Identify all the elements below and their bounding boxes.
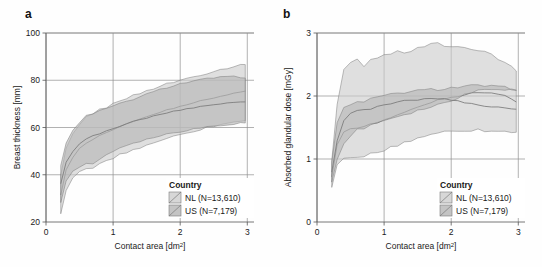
- x-tick-label: 0: [315, 227, 320, 237]
- y-tick-label: 0: [306, 217, 311, 227]
- y-tick-label: 2: [306, 91, 311, 101]
- legend-label-us: US (N=7,179): [185, 206, 237, 216]
- x-tick-label: 0: [44, 227, 49, 237]
- legend-title: Country: [169, 180, 202, 190]
- legend: CountryNL (N=13,610)US (N=7,179): [437, 178, 525, 218]
- y-tick-label: 1: [306, 154, 311, 164]
- x-axis-title: Contact area [dm2]: [115, 241, 186, 251]
- panel-a-plot: 012320406080100Contact area [dm2]Breast …: [0, 0, 271, 267]
- x-tick-label: 3: [245, 227, 250, 237]
- x-tick-label: 3: [516, 227, 521, 237]
- y-axis-title: Breast thickness [mm]: [12, 86, 22, 170]
- legend-label-nl: NL (N=13,610): [185, 193, 241, 203]
- y-tick-label: 20: [31, 217, 41, 227]
- x-axis-title: Contact area [dm2]: [386, 241, 457, 251]
- panel-b-plot: 01230123Contact area [dm2]Absorbed gland…: [271, 0, 542, 267]
- x-tick-label: 1: [382, 227, 387, 237]
- y-tick-label: 80: [31, 75, 41, 85]
- x-tick-label: 2: [449, 227, 454, 237]
- panel-b: b 01230123Contact area [dm2]Absorbed gla…: [271, 0, 542, 267]
- x-tick-label: 1: [111, 227, 116, 237]
- legend-title: Country: [440, 180, 473, 190]
- panel-a: a 012320406080100Contact area [dm2]Breas…: [0, 0, 271, 267]
- figure-container: a 012320406080100Contact area [dm2]Breas…: [0, 0, 542, 267]
- y-tick-label: 40: [31, 170, 41, 180]
- legend-label-us: US (N=7,179): [456, 206, 508, 216]
- y-axis-title: Absorbed glandular dose [mGy]: [283, 68, 293, 188]
- legend: CountryNL (N=13,610)US (N=7,179): [166, 178, 254, 218]
- y-tick-label: 3: [306, 28, 311, 38]
- legend-label-nl: NL (N=13,610): [456, 193, 512, 203]
- y-tick-label: 60: [31, 123, 41, 133]
- y-tick-label: 100: [26, 28, 40, 38]
- x-tick-label: 2: [178, 227, 183, 237]
